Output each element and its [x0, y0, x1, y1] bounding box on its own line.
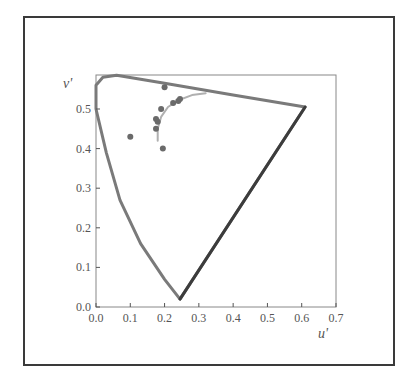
data-point [155, 119, 161, 125]
x-axis-label: u' [318, 326, 329, 341]
x-tick-label: 0.5 [260, 311, 275, 325]
plot-area [96, 75, 336, 307]
y-tick-label: 0.2 [76, 221, 91, 235]
chromaticity-chart: 0.00.10.20.30.40.50.60.7 0.00.10.20.30.4… [0, 0, 411, 389]
y-tick-label: 0.3 [76, 181, 91, 195]
data-point [162, 84, 168, 90]
data-point [177, 96, 183, 102]
data-point [127, 134, 133, 140]
x-tick-label: 0.6 [294, 311, 309, 325]
data-point [170, 100, 176, 106]
y-tick-label: 0.5 [76, 102, 91, 116]
x-tick-label: 0.2 [157, 311, 172, 325]
x-tick-label: 0.1 [123, 311, 138, 325]
x-tick-label: 0.4 [226, 311, 241, 325]
series-layer [96, 75, 305, 299]
x-axis: 0.00.10.20.30.40.50.60.7 [89, 303, 344, 325]
y-tick-label: 0.1 [76, 260, 91, 274]
purple-line [180, 107, 305, 299]
data-point [160, 146, 166, 152]
x-tick-label: 0.7 [329, 311, 344, 325]
y-tick-label: 0.4 [76, 142, 91, 156]
data-point [153, 126, 159, 132]
y-axis-label: v' [63, 76, 73, 91]
y-tick-label: 0.0 [76, 300, 91, 314]
x-tick-label: 0.3 [191, 311, 206, 325]
data-point [158, 106, 164, 112]
